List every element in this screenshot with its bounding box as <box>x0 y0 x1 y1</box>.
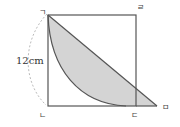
point-label-top-right: ㄹ <box>137 3 144 12</box>
point-label-bottom-right: ㄷ <box>131 111 138 120</box>
geometry-diagram: ㄱ ㄹ ㄴ ㄷ ㅁ 12cm <box>0 0 180 127</box>
point-label-extended: ㅁ <box>162 103 169 112</box>
side-length-label: 12cm <box>16 55 44 66</box>
point-label-bottom-left: ㄴ <box>39 111 46 120</box>
point-label-top-left: ㄱ <box>39 8 46 17</box>
